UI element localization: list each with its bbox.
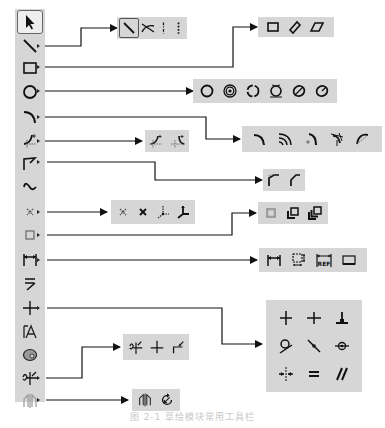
rotate-resize-tool[interactable] [156,392,178,408]
tangent-constraint-tool[interactable] [272,332,300,360]
dynamic-trim-tool[interactable] [125,339,146,355]
conic-arc-icon [355,131,371,147]
3-tangent-arc-tool[interactable] [324,131,350,147]
3-point-circle-tool[interactable] [241,83,264,99]
parallel-constraint-tool[interactable] [328,360,356,388]
midpoint-constraint-tool[interactable] [300,332,328,360]
text-button[interactable] [15,321,45,343]
geometry-centerline-tool[interactable] [171,20,186,36]
reference-dimension-tool[interactable]: REF [311,252,336,268]
circular-fillet-icon [148,133,164,149]
spline-button[interactable] [15,176,45,198]
line-button[interactable] [15,35,45,57]
circle-flyout-indicator[interactable] [37,89,40,93]
constraint-flyout [266,300,362,392]
3-point-arc-icon [251,131,267,147]
thicken-edge-icon [307,205,323,221]
fillet-button[interactable] [15,130,45,152]
geometry-point-icon [135,204,151,220]
center-arc-icon [303,131,319,147]
3-tangent-circle-tool[interactable] [264,83,287,99]
chamfer-flyout-indicator[interactable] [37,160,40,164]
point-icon [115,204,131,220]
3-point-arc-tool[interactable] [246,131,272,147]
constraint-button[interactable] [15,297,45,319]
rectangle-button[interactable] [15,57,45,79]
sketch-toolbar [15,9,45,402]
centerline-icon [156,20,171,36]
mirror-icon [137,392,153,408]
fillet-flyout-indicator[interactable] [37,139,40,143]
mirror-button[interactable] [15,390,45,412]
vertical-icon [277,309,295,327]
mirror-flyout-indicator[interactable] [37,398,40,402]
center-ellipse-tool[interactable] [310,83,333,99]
line-tool[interactable] [119,18,139,38]
equal-constraint-tool[interactable] [300,360,328,388]
constraint-flyout-indicator[interactable] [37,306,40,310]
vertical-constraint-tool[interactable] [272,304,300,332]
circle-tool[interactable] [195,83,218,99]
corner-trim-tool[interactable] [167,339,188,355]
normal-dimension-tool[interactable] [261,252,286,268]
offset-flyout-indicator[interactable] [37,233,40,237]
perimeter-dimension-tool[interactable] [286,252,311,268]
centerline-tool[interactable] [156,20,171,36]
rectangle-icon [265,19,281,35]
use-edge-icon [263,205,279,221]
horizontal-constraint-tool[interactable] [300,304,328,332]
3-tangent-circle-icon [268,83,284,99]
offset-edge-tool[interactable] [282,205,304,221]
palette-icon [21,346,39,364]
parallelogram-tool[interactable] [306,19,328,35]
fillet-flyout [145,130,189,152]
elliptical-fillet-tool[interactable] [167,133,189,149]
palette-button[interactable] [15,344,45,366]
concentric-circle-tool[interactable] [218,83,241,99]
geometry-point-tool[interactable] [133,204,153,220]
arc-flyout-indicator[interactable] [37,115,40,119]
tangent-line-icon [140,20,156,36]
trim-flyout [123,334,189,360]
point-button[interactable] [15,201,45,223]
rectangle-tool[interactable] [262,19,284,35]
thicken-edge-tool[interactable] [304,205,326,221]
arc-button[interactable] [15,106,45,128]
center-arc-tool[interactable] [298,131,324,147]
mirror-flyout [132,389,180,411]
use-edge-tool[interactable] [260,205,282,221]
chamfer-tool[interactable] [263,172,284,188]
circle-button[interactable] [15,81,45,103]
dimension-flyout-indicator[interactable] [37,258,40,262]
chamfer-trim-tool[interactable] [284,172,305,188]
offset-button[interactable] [15,224,45,246]
select-button[interactable] [17,10,43,34]
mirror-tool[interactable] [134,392,156,408]
point-tool[interactable] [113,204,133,220]
rectangle-flyout-indicator[interactable] [37,65,40,69]
trim-button[interactable] [15,367,45,389]
dynamic-trim-icon [128,339,144,355]
trim-flyout-indicator[interactable] [37,376,40,380]
concentric-circle-icon [222,83,238,99]
coordinate-system-tool[interactable] [153,204,173,220]
modify-button[interactable] [15,273,45,295]
slanted-rectangle-tool[interactable] [284,19,306,35]
axis-ellipse-tool[interactable] [287,83,310,99]
chamfer-button[interactable] [15,152,45,174]
horizontal-icon [305,309,323,327]
coincident-constraint-tool[interactable] [328,332,356,360]
conic-arc-tool[interactable] [350,131,376,147]
point-flyout-indicator[interactable] [37,210,40,214]
symmetric-constraint-tool[interactable] [272,360,300,388]
baseline-tool[interactable] [336,252,361,268]
divide-tool[interactable] [146,339,167,355]
perpendicular-constraint-tool[interactable] [328,304,356,332]
line-flyout-indicator[interactable] [37,44,40,48]
circular-fillet-tool[interactable] [145,133,167,149]
tangent-line-tool[interactable] [139,20,156,36]
geometry-coordinate-system-tool[interactable] [173,204,193,220]
chamfer-flyout [263,169,305,191]
concentric-arc-tool[interactable] [272,131,298,147]
dimension-button[interactable] [15,249,45,271]
